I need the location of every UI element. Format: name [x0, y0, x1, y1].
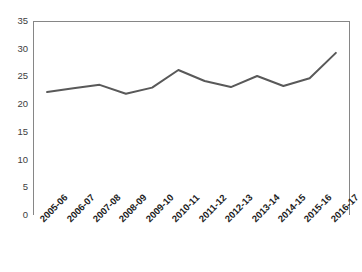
- y-tick-label: 0: [23, 210, 28, 220]
- y-tick-label: 20: [17, 99, 28, 109]
- y-tick-label: 10: [17, 155, 28, 165]
- line-chart: 05101520253035 2005-062006-072007-082008…: [0, 0, 362, 272]
- y-tick-label: 5: [23, 183, 28, 193]
- y-tick-label: 30: [17, 44, 28, 54]
- y-tick-label: 35: [17, 16, 28, 26]
- series-line-svg: [34, 22, 349, 215]
- plot-area: [33, 21, 350, 215]
- y-tick-label: 25: [17, 72, 28, 82]
- x-axis: 2005-062006-072007-082008-092009-102010-…: [33, 215, 350, 263]
- y-tick-label: 15: [17, 127, 28, 137]
- series-line: [47, 53, 336, 94]
- chart-caption: [2, 261, 302, 272]
- y-axis: 05101520253035: [0, 21, 28, 215]
